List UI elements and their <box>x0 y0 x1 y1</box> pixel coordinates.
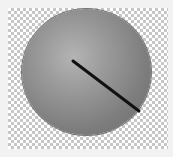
rotary-knob[interactable] <box>22 9 151 135</box>
